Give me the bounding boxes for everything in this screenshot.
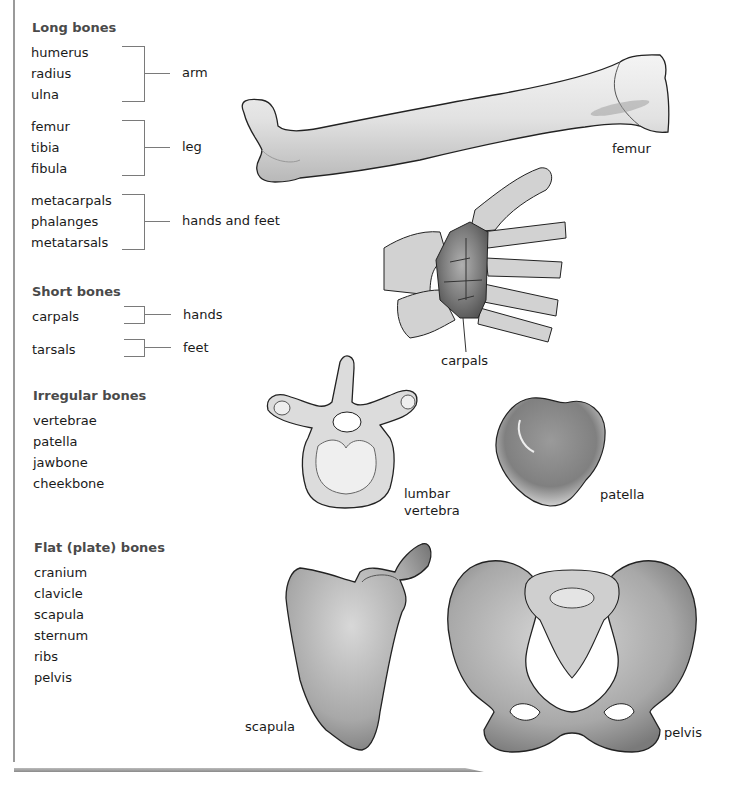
pelvis-illustration bbox=[0, 0, 729, 785]
label-pelvis: pelvis bbox=[664, 725, 702, 740]
